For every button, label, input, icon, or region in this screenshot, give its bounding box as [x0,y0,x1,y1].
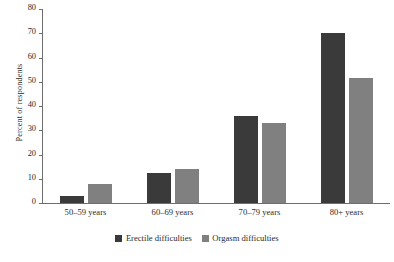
bar [88,184,112,203]
bar-group [321,9,373,203]
y-tick-label: 0 [10,197,36,206]
y-tick-label: 60 [10,52,36,61]
x-axis-line [42,203,390,204]
x-axis-label: 80+ years [299,207,394,217]
bar [60,196,84,203]
y-tick-mark [39,203,43,204]
y-tick-label: 50 [10,76,36,85]
y-tick-label: 10 [10,173,36,182]
y-tick-label: 20 [10,149,36,158]
bar [349,78,373,203]
bars-area [42,9,390,203]
bar [147,173,171,203]
x-axis-label: 70–79 years [212,207,308,217]
legend-swatch-icon [202,235,209,242]
bar [321,33,345,203]
legend-label: Erectile difficulties [126,233,192,243]
bar [262,123,286,203]
y-tick-label: 30 [10,124,36,133]
x-axis-label: 50–59 years [38,207,134,217]
legend-swatch-icon [115,235,122,242]
y-tick-label: 40 [10,100,36,109]
y-tick-label: 70 [10,27,36,36]
bar [175,169,199,203]
bar [234,116,258,203]
chart-legend: Erectile difficultiesOrgasm difficulties [0,233,394,243]
x-axis-label: 60–69 years [125,207,221,217]
bar-group [147,9,199,203]
y-tick-label: 80 [10,3,36,12]
x-axis-labels: 50–59 years60–69 years70–79 years80+ yea… [42,207,390,223]
legend-item: Orgasm difficulties [202,233,279,243]
legend-item: Erectile difficulties [115,233,191,243]
legend-label: Orgasm difficulties [212,233,278,243]
bar-group [60,9,112,203]
bar-chart: Percent of respondents 01020304050607080… [0,0,394,262]
bar-group [234,9,286,203]
